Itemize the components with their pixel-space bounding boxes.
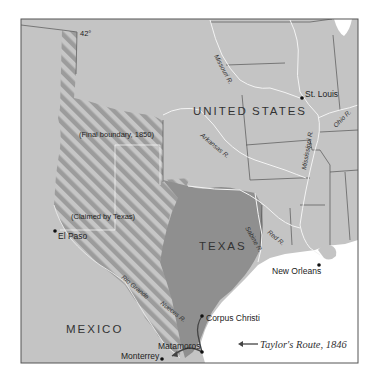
label-el-paso: El Paso (58, 231, 88, 241)
label-claimed-by-texas: (Claimed by Texas) (71, 212, 136, 221)
label-texas: TEXAS (199, 240, 247, 252)
label-matamoros: Matamoros (158, 341, 201, 351)
label-new-orleans: New Orleans (272, 266, 321, 276)
matamoros-dot (200, 350, 204, 354)
monterrey-dot (160, 357, 164, 361)
label-united: UNITED (193, 105, 248, 117)
label-monterrey: Monterrey (121, 351, 160, 361)
st-louis-dot (300, 96, 304, 100)
label-corpus-christi: Corpus Christi (206, 313, 260, 323)
label-states: STATES (252, 105, 307, 117)
el-paso-dot (53, 229, 57, 233)
map-canvas: UNITED STATES TEXAS MEXICO 42° (Final bo… (0, 0, 372, 385)
corpus-christi-dot (200, 314, 204, 318)
label-mexico: MEXICO (66, 323, 123, 335)
label-final-boundary: (Final boundary, 1850) (79, 130, 154, 139)
label-42-degree: 42° (80, 29, 91, 38)
legend-route-label: Taylor's Route, 1846 (260, 339, 347, 350)
label-st-louis: St. Louis (305, 89, 338, 99)
